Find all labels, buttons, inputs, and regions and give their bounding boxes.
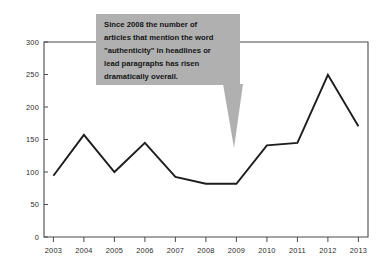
x-axis-label-2009: 2009 (228, 246, 245, 255)
x-axis-label-2005: 2005 (106, 246, 123, 255)
x-axis-label-2004: 2004 (75, 246, 92, 255)
callout-pointer-icon (223, 84, 243, 148)
x-axis-label-2003: 2003 (45, 246, 62, 255)
callout-line-1: Since 2008 the number of (104, 20, 198, 29)
y-axis-label-300: 300 (26, 38, 39, 47)
x-axis-ticks (53, 237, 358, 242)
x-axis-label-2008: 2008 (197, 246, 214, 255)
y-axis-label-150: 150 (26, 135, 39, 144)
x-axis-label-2013: 2013 (350, 246, 367, 255)
x-axis-label-2006: 2006 (136, 246, 153, 255)
y-axis-label-200: 200 (26, 103, 39, 112)
callout-line-4: lead paragraphs has risen (104, 59, 200, 68)
x-axis-label-2012: 2012 (319, 246, 336, 255)
chart-container: 300 250 200 150 100 50 0 2003 2004 20 (0, 0, 386, 270)
annotation-callout: Since 2008 the number of articles that m… (96, 14, 243, 148)
y-axis-label-0: 0 (35, 233, 39, 242)
x-axis-label-2010: 2010 (258, 246, 275, 255)
y-axis-label-50: 50 (30, 200, 39, 209)
callout-line-2: articles that mention the word (104, 33, 214, 42)
callout-line-3: "authenticity" in headlines or (104, 46, 211, 55)
y-axis-ticks (44, 42, 48, 237)
y-axis-tick-labels: 300 250 200 150 100 50 0 (26, 38, 39, 242)
x-axis-tick-labels: 2003 2004 2005 2006 2007 2008 2009 2010 … (45, 246, 367, 255)
y-axis-label-250: 250 (26, 70, 39, 79)
callout-line-5: dramatically overall. (104, 72, 178, 81)
x-axis-label-2011: 2011 (289, 246, 306, 255)
x-axis-label-2007: 2007 (167, 246, 184, 255)
line-chart: 300 250 200 150 100 50 0 2003 2004 20 (0, 0, 386, 270)
y-axis-label-100: 100 (26, 168, 39, 177)
data-series-line (53, 75, 358, 184)
